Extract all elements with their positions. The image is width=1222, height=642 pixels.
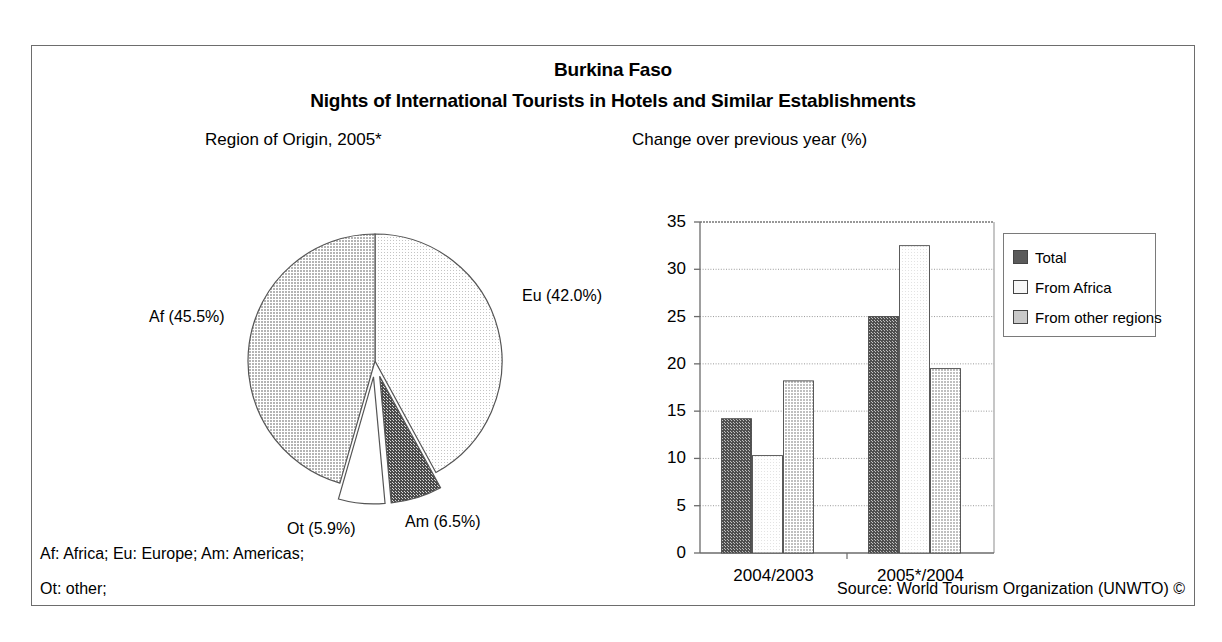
legend-label-from-other-regions: From other regions	[1035, 309, 1162, 326]
footnote-abbreviations-line2: Ot: other;	[40, 580, 107, 598]
bar-from-other-regions-2005-2004	[931, 369, 961, 553]
legend-label-total: Total	[1035, 249, 1067, 266]
bar-total-2004-2003	[722, 419, 752, 553]
source-note: Source: World Tourism Organization (UNWT…	[837, 580, 1185, 598]
chart-frame: Burkina Faso Nights of International Tou…	[31, 45, 1195, 606]
legend-item-total: Total	[1013, 242, 1155, 272]
y-axis-tick-label: 10	[650, 449, 686, 466]
legend-swatch-total	[1013, 250, 1028, 264]
page-title: Burkina Faso	[32, 59, 1194, 81]
legend-swatch-from-africa	[1013, 280, 1028, 294]
x-axis-tick-label: 2004/2003	[700, 566, 847, 586]
legend-label-from-africa: From Africa	[1035, 279, 1112, 296]
y-axis-tick-label: 25	[650, 308, 686, 325]
bars	[722, 246, 961, 553]
pie-chart-title: Region of Origin, 2005*	[205, 130, 382, 150]
legend-item-from-africa: From Africa	[1013, 272, 1155, 302]
y-axis-tick-label: 35	[650, 213, 686, 230]
y-axis-tick-label: 15	[650, 402, 686, 419]
bar-total-2005-2004	[869, 317, 899, 553]
y-axis-tick-label: 30	[650, 260, 686, 277]
pie-chart: Af (45.5%) Eu (42.0%) Am (6.5%) Ot (5.9%…	[132, 156, 622, 556]
y-axis-tick-label: 0	[650, 544, 686, 561]
bar-from-africa-2004-2003	[753, 456, 783, 553]
chart-page: Burkina Faso Nights of International Tou…	[0, 0, 1222, 642]
y-axis-tick-label: 20	[650, 355, 686, 372]
bar-chart-title: Change over previous year (%)	[632, 130, 867, 150]
footnote-abbreviations-line1: Af: Africa; Eu: Europe; Am: Americas;	[40, 545, 304, 563]
pie-label-eu: Eu (42.0%)	[522, 287, 602, 305]
pie-label-ot: Ot (5.9%)	[287, 520, 355, 538]
pie-slices	[248, 234, 502, 504]
pie-chart-svg	[132, 156, 622, 556]
pie-label-am: Am (6.5%)	[405, 513, 481, 531]
legend-item-from-other-regions: From other regions	[1013, 302, 1155, 332]
bar-chart-svg	[632, 156, 1192, 586]
bar-from-other-regions-2004-2003	[784, 381, 814, 553]
y-axis-tick-label: 5	[650, 497, 686, 514]
chart-legend: Total From Africa From other regions	[1003, 233, 1156, 337]
bar-chart: 05101520253035 2004/20032005*/2004 Total…	[632, 156, 1192, 586]
page-subtitle: Nights of International Tourists in Hote…	[32, 90, 1194, 112]
legend-swatch-from-other-regions	[1013, 310, 1028, 324]
bar-from-africa-2005-2004	[900, 246, 930, 553]
pie-label-af: Af (45.5%)	[149, 308, 225, 326]
